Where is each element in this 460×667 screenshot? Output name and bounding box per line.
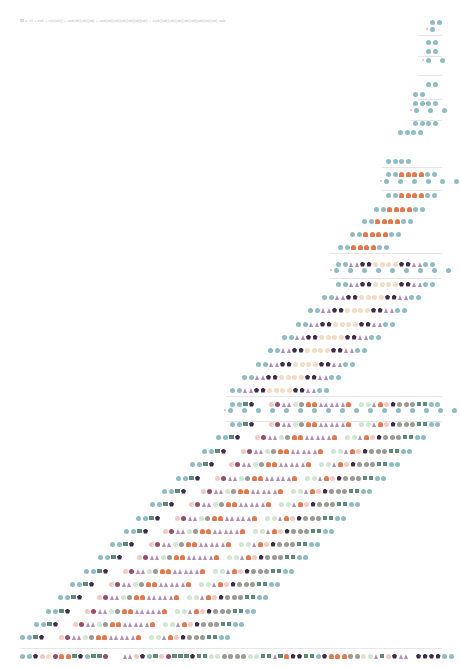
dark-pentagon-icon (39, 635, 44, 640)
dark-pentagon-icon (53, 622, 58, 627)
orange-dome-icon (232, 502, 237, 507)
orange-dome-icon (226, 542, 231, 547)
pink-circle-icon (123, 569, 128, 574)
teal-circle-icon (381, 207, 386, 212)
mauve-triangle-icon (150, 555, 154, 560)
teal-circle-icon (398, 179, 403, 184)
grey-circle-icon (291, 529, 296, 534)
orange-dome-icon (59, 654, 64, 659)
mauve-triangle-icon (176, 622, 180, 627)
mauve-triangle-icon (256, 489, 260, 494)
mauve-triangle-icon (155, 555, 159, 560)
dark-pentagon-icon (140, 654, 145, 659)
mauve-triangle-icon (225, 516, 229, 521)
pink-circle-icon (159, 654, 164, 659)
gap (262, 408, 268, 413)
dark-pentagon-icon (287, 362, 292, 367)
light-green-circle-icon (253, 462, 258, 467)
mauve-triangle-icon (151, 609, 155, 614)
mauve-triangle-icon (282, 422, 286, 427)
mauve-triangle-icon (330, 422, 334, 427)
teal-circle-icon (336, 375, 341, 380)
gap (247, 529, 252, 534)
teal-circle-icon (369, 219, 374, 224)
green-square-icon (71, 595, 76, 600)
gap (339, 435, 344, 440)
gap (116, 654, 121, 659)
teal-circle-icon (348, 268, 353, 273)
mauve-triangle-icon (228, 476, 232, 481)
sequence-row (20, 634, 232, 640)
mauve-triangle-icon (152, 595, 156, 600)
mauve-triangle-icon (279, 462, 283, 467)
light-green-circle-icon (272, 516, 277, 521)
grey-circle-icon (304, 529, 309, 534)
beige-circle-icon (326, 335, 331, 340)
teal-circle-icon (389, 462, 394, 467)
mauve-triangle-icon (374, 654, 378, 659)
beige-circle-icon (333, 322, 338, 327)
teal-circle-icon (413, 101, 418, 106)
green-square-icon (310, 654, 315, 659)
grey-circle-icon (179, 542, 184, 547)
gap (216, 462, 221, 467)
dark-pentagon-icon (429, 654, 434, 659)
dark-pentagon-icon (378, 308, 383, 313)
teal-circle-icon (437, 20, 442, 25)
sequence-row (242, 374, 342, 380)
dark-pentagon-icon (65, 609, 70, 614)
mauve-triangle-icon (302, 449, 306, 454)
maroon-circle-icon (207, 489, 212, 494)
teal-circle-icon (335, 516, 340, 521)
mauve-triangle-icon (109, 635, 113, 640)
mauve-triangle-icon (218, 529, 222, 534)
orange-dome-icon (252, 516, 257, 521)
grey-circle-icon (103, 622, 108, 627)
green-square-icon (72, 654, 77, 659)
light-green-circle-icon (170, 622, 175, 627)
beige-circle-icon (339, 335, 344, 340)
mauve-triangle-icon (199, 542, 203, 547)
teal-circle-icon (284, 408, 289, 413)
mauve-triangle-icon (378, 322, 382, 327)
teal-circle-icon (423, 282, 428, 287)
gap (332, 408, 338, 413)
green-square-icon (257, 582, 262, 587)
mauve-triangle-icon (125, 635, 129, 640)
teal-circle-icon (147, 654, 152, 659)
beige-circle-icon (373, 282, 378, 287)
light-green-circle-icon (298, 489, 303, 494)
mauve-triangle-icon (344, 449, 348, 454)
grey-circle-icon (350, 476, 355, 481)
teal-circle-icon (369, 335, 374, 340)
light-green-circle-icon (187, 595, 192, 600)
teal-circle-icon (46, 609, 51, 614)
teal-circle-icon (368, 408, 373, 413)
grey-circle-icon (343, 476, 348, 481)
orange-dome-icon (146, 582, 151, 587)
teal-circle-icon (303, 322, 308, 327)
mauve-triangle-icon (404, 654, 408, 659)
orange-dome-icon (387, 207, 392, 212)
orange-dome-icon (399, 172, 404, 177)
teal-circle-icon (315, 308, 320, 313)
light-green-circle-icon (83, 635, 88, 640)
pink-circle-icon (386, 654, 391, 659)
light-green-circle-icon (286, 502, 291, 507)
pink-circle-icon (215, 476, 220, 481)
mauve-triangle-icon (404, 295, 408, 300)
mauve-triangle-icon (72, 635, 76, 640)
grey-circle-icon (404, 422, 409, 427)
gap (130, 555, 135, 560)
mauve-triangle-icon (281, 348, 285, 353)
dark-pentagon-icon (331, 348, 336, 353)
pink-circle-icon (370, 435, 375, 440)
teal-circle-icon (219, 635, 224, 640)
teal-circle-icon (430, 282, 435, 287)
beige-circle-icon (313, 362, 318, 367)
green-square-icon (33, 635, 38, 640)
mauve-triangle-icon (195, 569, 199, 574)
grey-circle-icon (277, 542, 282, 547)
dark-pentagon-icon (300, 388, 305, 393)
mauve-triangle-icon (327, 308, 331, 313)
